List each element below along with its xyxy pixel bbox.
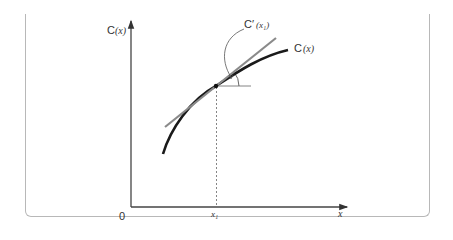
x1-tick-label: x₁ <box>210 209 218 219</box>
tangency-point <box>214 84 218 88</box>
curve-label: C(x) <box>294 42 315 55</box>
tangent-line <box>165 38 276 127</box>
origin-label: 0 <box>119 210 125 222</box>
x-axis-label: x <box>337 208 343 219</box>
cost-curve-diagram: C(x) C′(x₁) C(x) 0 x₁ x <box>0 0 453 240</box>
y-axis-label: C(x) <box>107 24 127 37</box>
derivative-label: C′(x₁) <box>244 18 269 30</box>
